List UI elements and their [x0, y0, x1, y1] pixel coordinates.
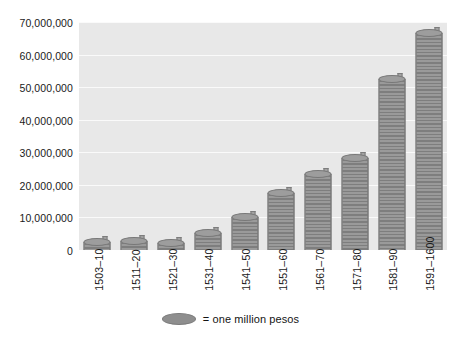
x-tick-label: 1561–70: [314, 254, 326, 291]
x-tick-label: 1503–10: [93, 254, 105, 291]
legend-label: = one million pesos: [203, 313, 299, 325]
bar-1531-40[interactable]: [194, 233, 221, 250]
bar-1581-90[interactable]: [378, 79, 405, 250]
coin-nub-icon: [140, 235, 145, 240]
bar-slot: [337, 22, 374, 250]
coin-nub-icon: [176, 237, 181, 242]
bar-slot: [153, 22, 190, 250]
x-tick-label: 1541–50: [240, 254, 252, 291]
coin-nub-icon: [103, 236, 108, 241]
x-tick-label: 1521–30: [167, 254, 179, 291]
x-tick-label: 1531–40: [203, 254, 215, 291]
bars-layer: [79, 22, 447, 250]
bar-slot: [263, 22, 300, 250]
y-tick-label: 10,000,000: [0, 212, 73, 224]
coin-nub-icon: [324, 168, 329, 173]
bar-slot: [189, 22, 226, 250]
bar-slot: [116, 22, 153, 250]
y-tick-label: 30,000,000: [0, 147, 73, 159]
x-tick-label: 1581–90: [387, 254, 399, 291]
y-tick-label: 0: [0, 245, 73, 257]
y-tick-label: 70,000,000: [0, 17, 73, 29]
y-tick-label: 50,000,000: [0, 82, 73, 94]
coin-nub-icon: [287, 187, 292, 192]
coin-ellipse-icon: [162, 313, 196, 325]
y-tick-label: 60,000,000: [0, 50, 73, 62]
x-tick-label: 1511–20: [130, 254, 142, 291]
coin-nub-icon: [397, 73, 402, 78]
bar-slot: [373, 22, 410, 250]
coin-nub-icon: [360, 152, 365, 157]
x-axis: 1503–10 1511–20 1521–30 1531–40 1541–50 …: [79, 252, 447, 312]
bar-chart: 70,000,000 60,000,000 50,000,000 40,000,…: [0, 0, 461, 343]
bar-1591-1600[interactable]: [415, 33, 442, 250]
x-tick-label: 1591–1600: [424, 254, 436, 291]
y-tick-label: 20,000,000: [0, 180, 73, 192]
bar-1571-80[interactable]: [341, 158, 368, 250]
bar-1561-70[interactable]: [305, 174, 332, 250]
bar-1551-60[interactable]: [268, 193, 295, 250]
coin-nub-icon: [434, 27, 439, 32]
x-tick-label: 1571–80: [351, 254, 363, 291]
bar-slot: [226, 22, 263, 250]
coin-nub-icon: [213, 227, 218, 232]
x-tick-label: 1551–60: [277, 254, 289, 291]
bar-slot: [410, 22, 447, 250]
bar-slot: [300, 22, 337, 250]
coin-nub-icon: [250, 211, 255, 216]
bar-slot: [79, 22, 116, 250]
chart-legend: = one million pesos: [0, 313, 461, 325]
bar-1541-50[interactable]: [231, 217, 258, 250]
y-tick-label: 40,000,000: [0, 115, 73, 127]
